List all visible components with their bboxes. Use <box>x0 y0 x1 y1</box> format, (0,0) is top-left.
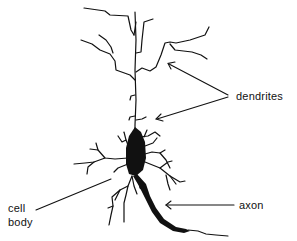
basal-dendrite <box>124 186 128 222</box>
axon-terminal <box>188 230 228 236</box>
basal-dendrite <box>96 143 128 159</box>
basal-dendrite <box>90 149 98 150</box>
dendrite-twig <box>129 116 135 120</box>
dendrite-branch <box>81 40 135 80</box>
dendrites-pointer-line-lower <box>157 97 228 119</box>
cell-body-soma <box>126 127 146 176</box>
dendrite-twig <box>136 117 146 120</box>
cell-body-label-line2: body <box>8 216 33 229</box>
basal-dendrite <box>87 162 94 174</box>
dendrites-label: dendrites <box>236 90 283 103</box>
cell-body-pointer-line <box>36 179 111 210</box>
basal-dendrite <box>124 132 126 140</box>
dendrite-branch <box>170 44 207 59</box>
cell-body-label-line1: cell <box>8 202 25 215</box>
dendrites-pointer-line-upper <box>169 64 228 95</box>
dendrite-twig <box>130 95 135 100</box>
basal-dendrite <box>114 164 128 172</box>
basal-dendrite <box>145 150 165 154</box>
basal-dendrite <box>74 158 105 164</box>
axon <box>133 174 190 233</box>
basal-dendrite <box>145 162 176 184</box>
basal-dendrite <box>145 138 157 146</box>
dendrite-branch <box>136 19 153 53</box>
axon-label: axon <box>239 199 264 212</box>
dendrite-branch <box>84 8 134 35</box>
basal-dendrite <box>115 176 132 200</box>
basal-dendrite <box>166 175 170 190</box>
basal-dendrite <box>160 161 172 168</box>
basal-dendrite <box>160 153 170 168</box>
